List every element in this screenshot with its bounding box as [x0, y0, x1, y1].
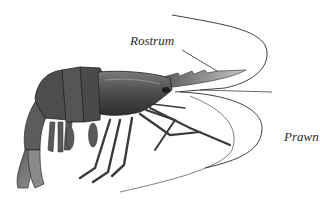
- abdomen: [35, 67, 102, 122]
- rostrum-leader-line: [182, 50, 222, 74]
- label-rostrum: Rostrum: [130, 34, 174, 47]
- legs: [80, 104, 230, 182]
- swimmerets: [48, 122, 98, 152]
- rostrum: [160, 70, 246, 88]
- eye: [162, 87, 170, 93]
- prawn-illustration: [0, 0, 320, 203]
- label-prawn: Prawn: [284, 130, 319, 143]
- carapace: [98, 71, 172, 115]
